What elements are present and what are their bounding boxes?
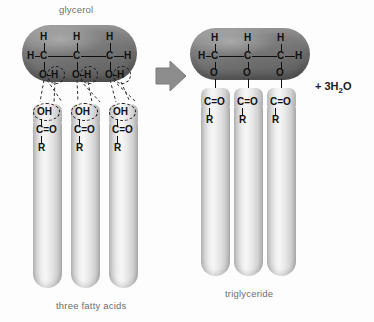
connector-h1-b	[54, 82, 55, 102]
fatty-acid-carbonyl-1: C=O	[36, 125, 57, 135]
connector-o3-a	[110, 80, 116, 102]
product-r-3: R	[272, 115, 279, 125]
ester-o-3: O	[276, 68, 284, 78]
glycerol-c-3: C	[106, 51, 113, 61]
product-c-2: C	[244, 51, 251, 61]
product-r-2: R	[239, 115, 246, 125]
leaving-h-circle-3	[113, 66, 131, 84]
glycerol-label: glycerol	[59, 4, 93, 15]
glycerol-top-h-1: H	[40, 32, 47, 42]
fatty-acid-r-2: R	[76, 143, 83, 153]
glycerol-o-1: O	[39, 70, 47, 80]
product-left-h: H	[198, 51, 205, 61]
three-fatty-acids-label: three fatty acids	[56, 300, 126, 311]
fatty-acid-oh-circle-1	[33, 103, 60, 121]
bond-c3-h	[114, 56, 124, 57]
triglyceride-formation-diagram: glycerol H H H H C C C H O H O H O H OH …	[0, 0, 374, 322]
product-top-h-3: H	[277, 33, 284, 43]
fatty-acid-r-1: R	[38, 143, 45, 153]
fatty-acid-oh-circle-3	[109, 103, 136, 121]
glycerol-c-1: C	[40, 51, 47, 61]
glycerol-right-h: H	[124, 51, 131, 61]
fatty-acid-capsule-2	[71, 112, 100, 288]
product-right-h: H	[295, 51, 302, 61]
fatty-acid-carbonyl-3: C=O	[112, 125, 133, 135]
product-c-1: C	[211, 51, 218, 61]
glycerol-o-2: O	[72, 70, 80, 80]
glycerol-left-h: H	[27, 51, 34, 61]
leaving-h-circle-1	[47, 66, 65, 84]
bond-hc-left	[35, 56, 40, 57]
glycerol-o-3: O	[105, 70, 113, 80]
product-carbonyl-2: C=O	[237, 97, 258, 107]
product-carbonyl-3: C=O	[270, 97, 291, 107]
connector-o2-a	[77, 80, 78, 102]
right-arrow-icon	[156, 61, 186, 91]
ester-o-1: O	[210, 68, 218, 78]
bond-c2-c3	[81, 56, 106, 57]
water-suffix: O	[343, 80, 352, 92]
p-bond-hc-left	[206, 56, 211, 57]
connector-h3-b	[121, 82, 130, 102]
glycerol-top-h-3: H	[106, 32, 113, 42]
fatty-acid-carbonyl-2: C=O	[74, 125, 95, 135]
connector-o1-a	[40, 80, 44, 102]
p-bond-c3-h	[285, 56, 295, 57]
leaving-h-circle-2	[80, 66, 98, 84]
product-top-h-1: H	[211, 33, 218, 43]
ester-o-2: O	[243, 68, 251, 78]
water-prefix: + 3H	[315, 80, 339, 92]
product-top-h-2: H	[244, 33, 251, 43]
glycerol-top-h-2: H	[73, 32, 80, 42]
bond-c1-c2	[48, 56, 73, 57]
fatty-acid-oh-circle-2	[71, 103, 98, 121]
triglyceride-label: triglyceride	[225, 288, 273, 299]
connector-h2-b	[88, 82, 92, 102]
product-c-3: C	[277, 51, 284, 61]
fatty-acid-capsule-3	[109, 112, 138, 288]
p-bond-c1-c2	[219, 56, 244, 57]
glycerol-c-2: C	[73, 51, 80, 61]
p-bond-c2-c3	[252, 56, 277, 57]
water-byproduct: + 3H2O	[315, 80, 352, 95]
product-carbonyl-1: C=O	[204, 97, 225, 107]
fatty-acid-r-3: R	[114, 143, 121, 153]
fatty-acid-capsule-1	[33, 112, 62, 288]
product-r-1: R	[206, 115, 213, 125]
